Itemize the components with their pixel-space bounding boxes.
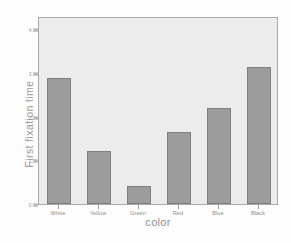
bar: [47, 78, 71, 204]
bar-series: [39, 18, 277, 204]
y-tick-label: 4.00: [0, 28, 38, 33]
y-tick-label: 0.00: [0, 203, 38, 208]
bar: [247, 67, 271, 204]
x-tick-mark: [178, 205, 179, 209]
x-tick-mark: [218, 205, 219, 209]
y-tick-label: 2.00: [0, 115, 38, 120]
bar: [127, 186, 151, 204]
x-tick-mark: [58, 205, 59, 209]
y-tick-label: 3.00: [0, 71, 38, 76]
bar: [167, 132, 191, 204]
x-axis-title: color: [38, 216, 278, 228]
x-tick-mark: [138, 205, 139, 209]
x-tick-mark: [258, 205, 259, 209]
x-tick-mark: [98, 205, 99, 209]
plot-area: [38, 17, 278, 205]
bar: [207, 108, 231, 204]
bar: [87, 151, 111, 204]
y-tick-label: 1.00: [0, 159, 38, 164]
bar-chart-figure: First fixation time 0.001.002.003.004.00…: [0, 0, 291, 243]
